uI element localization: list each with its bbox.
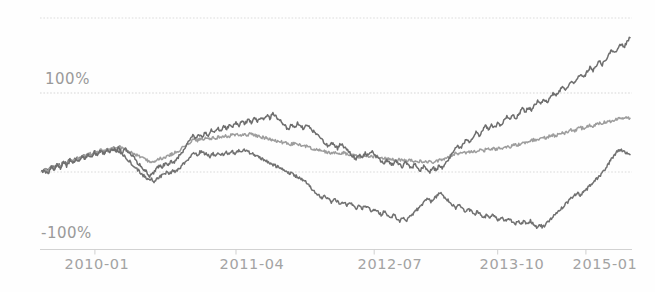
chart-container: 100% -100% 2010-01 2011-04 2012-07 2013-…	[0, 0, 655, 292]
y-axis-label-negative-100: -100%	[41, 224, 92, 242]
gridlines-group	[40, 18, 632, 172]
series-line-top	[42, 37, 630, 177]
line-chart-plot	[0, 0, 655, 292]
axis-group	[40, 250, 632, 255]
x-axis-ticks	[95, 250, 586, 255]
x-axis-tick-label-2011-04: 2011-04	[220, 256, 285, 272]
x-axis-tick-label-2013-10: 2013-10	[480, 256, 545, 272]
x-axis-tick-label-2015-01: 2015-01	[573, 256, 638, 272]
x-axis-tick-label-2012-07: 2012-07	[358, 256, 423, 272]
y-axis-label-100: 100%	[45, 70, 90, 88]
x-axis-tick-label-2010-01: 2010-01	[65, 256, 130, 272]
series-line-middle	[42, 117, 630, 173]
series-group	[42, 37, 630, 228]
series-line-bottom	[42, 149, 630, 229]
